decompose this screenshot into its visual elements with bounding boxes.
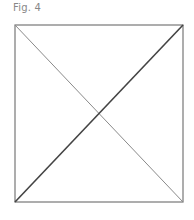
figure-diagram [0,0,194,220]
